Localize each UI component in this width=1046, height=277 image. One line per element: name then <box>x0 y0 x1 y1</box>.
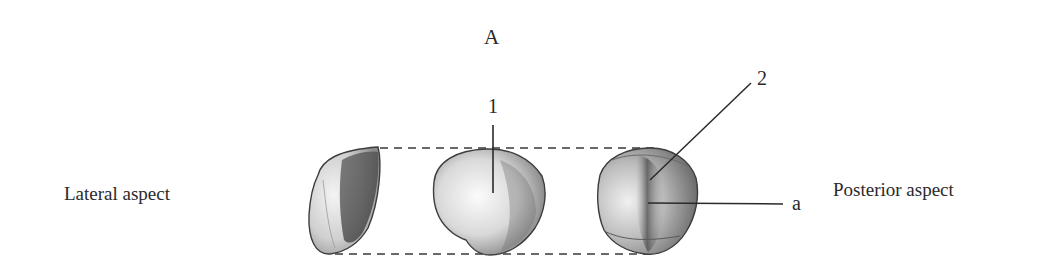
callout-line-a <box>648 203 783 204</box>
anterior-view-drawing <box>433 125 545 255</box>
posterior-view-drawing <box>598 83 783 254</box>
illustration-canvas <box>0 0 1046 277</box>
lateral-view-drawing <box>309 147 380 254</box>
callout-line-2 <box>650 83 751 180</box>
